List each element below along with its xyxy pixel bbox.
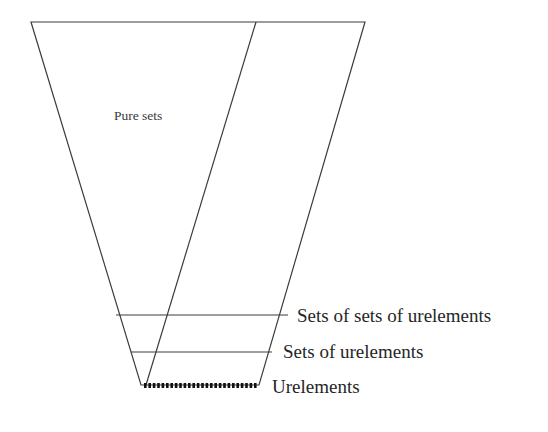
funnel-outline <box>31 22 365 385</box>
set-theory-cumulative-hierarchy-diagram: Pure sets Sets of sets of urelements Set… <box>0 0 548 432</box>
hierarchy-funnel-graphic <box>0 0 548 432</box>
label-sets-of-urelements: Sets of urelements <box>283 342 423 361</box>
label-pure-sets: Pure sets <box>114 109 162 123</box>
label-sets-of-sets-of-urelements: Sets of sets of urelements <box>297 306 491 325</box>
pure-sets-boundary-line <box>146 22 256 385</box>
label-urelements: Urelements <box>272 377 360 396</box>
